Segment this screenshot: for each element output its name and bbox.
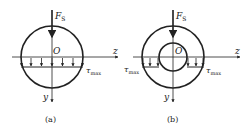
caption-a: (a)	[45, 115, 56, 124]
tau-max-label-right: τmax	[206, 66, 221, 76]
force-label: FS	[175, 11, 186, 22]
tau-max-label-left: τmax	[124, 65, 139, 75]
y-axis-label: y	[163, 92, 170, 102]
force-label: FS	[54, 11, 65, 22]
origin-label: O	[53, 46, 61, 56]
z-axis-label: z	[234, 46, 240, 56]
origin-label: O	[175, 46, 183, 56]
panel-b: FS O z y τmax τmax (b)	[124, 10, 240, 124]
shear-stress-diagram: FS O z y τmax (a) FS O z y τmax τmax (b)	[0, 0, 249, 129]
z-axis-label: z	[112, 46, 118, 56]
tau-max-label: τmax	[86, 66, 101, 76]
shear-stress-arrows	[22, 58, 83, 66]
panel-a: FS O z y τmax (a)	[12, 10, 118, 124]
y-axis-label: y	[42, 92, 49, 102]
caption-b: (b)	[167, 115, 178, 124]
